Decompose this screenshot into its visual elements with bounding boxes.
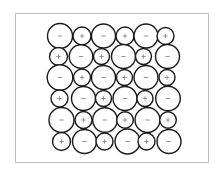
cation-ion — [53, 133, 71, 151]
anion-ion — [92, 66, 116, 90]
anion-ion — [112, 45, 136, 69]
cation-ion — [75, 112, 92, 129]
cation-ion — [50, 48, 68, 66]
cation-ion — [116, 27, 134, 45]
cation-ion — [51, 90, 68, 107]
anion-ion — [115, 129, 140, 154]
cation-ion — [96, 91, 112, 107]
cation-ion — [157, 28, 174, 45]
ionic-lattice-diagram — [0, 0, 217, 172]
cation-ion — [117, 112, 134, 129]
cation-ion — [117, 70, 133, 86]
cation-ion — [137, 91, 153, 107]
cation-ion — [96, 133, 113, 150]
anion-ion — [156, 45, 180, 69]
anion-ion — [93, 108, 118, 133]
anion-ion — [47, 65, 73, 91]
cation-ion — [73, 27, 91, 45]
cation-ion — [138, 133, 155, 150]
anion-ion — [134, 66, 158, 90]
anion-ion — [156, 86, 181, 111]
anion-ion — [92, 24, 116, 48]
cation-ion — [94, 49, 110, 65]
anion-ion — [135, 108, 160, 133]
cation-ion — [159, 70, 175, 86]
anion-ion — [113, 87, 137, 111]
cation-ion — [74, 69, 91, 86]
anion-ion — [69, 45, 93, 69]
anion-ion — [73, 130, 97, 154]
anion-ion — [134, 24, 158, 48]
anion-ion — [157, 130, 181, 154]
cation-ion — [136, 49, 152, 65]
anion-ion — [48, 24, 73, 49]
anion-ion — [49, 108, 74, 133]
anion-ion — [72, 87, 96, 111]
cation-ion — [160, 112, 177, 129]
